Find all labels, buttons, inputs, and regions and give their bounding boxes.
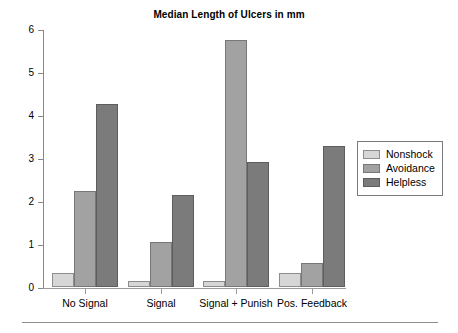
chart-legend: NonshockAvoidanceHelpless <box>357 141 443 196</box>
legend-swatch-icon <box>363 150 380 159</box>
bar[interactable] <box>301 263 323 288</box>
x-axis-tick <box>236 289 237 294</box>
bar[interactable] <box>323 146 345 287</box>
y-axis-tick: 6 <box>38 30 43 31</box>
y-axis-tick: 3 <box>38 159 43 160</box>
y-axis-tick: 2 <box>38 202 43 203</box>
legend-swatch-icon <box>363 164 380 173</box>
y-axis-tick: 5 <box>38 73 43 74</box>
bar[interactable] <box>96 104 118 287</box>
bar[interactable] <box>279 273 301 287</box>
legend-item-label: Helpless <box>386 176 426 189</box>
legend-swatch-icon <box>363 178 380 187</box>
x-axis-label: Pos. Feedback <box>277 296 347 310</box>
bar[interactable] <box>128 281 150 287</box>
chart-title: Median Length of Ulcers in mm <box>0 9 458 20</box>
bar-group <box>279 29 345 287</box>
y-axis-tick-label: 3 <box>28 152 34 165</box>
legend-item[interactable]: Helpless <box>363 176 435 189</box>
x-axis-label: Signal <box>146 296 175 310</box>
bar-group <box>52 29 118 287</box>
x-axis-tick <box>161 289 162 294</box>
bar[interactable] <box>172 195 194 287</box>
bar[interactable] <box>74 191 96 287</box>
bar[interactable] <box>225 40 247 287</box>
plot-area: 0123456 No SignalSignalSignal + PunishPo… <box>43 30 346 288</box>
x-axis-label: Signal + Punish <box>199 296 272 310</box>
y-axis-tick-label: 6 <box>28 23 34 36</box>
bottom-divider <box>22 322 438 323</box>
bar[interactable] <box>150 242 172 287</box>
legend-item-label: Avoidance <box>386 162 435 175</box>
x-axis-tick <box>312 289 313 294</box>
x-axis-line <box>43 288 346 289</box>
y-axis-tick: 0 <box>38 288 43 289</box>
legend-item[interactable]: Nonshock <box>363 148 435 161</box>
bar[interactable] <box>52 273 74 287</box>
y-axis-tick-label: 1 <box>28 238 34 251</box>
y-axis-tick-label: 4 <box>28 109 34 122</box>
y-axis-tick: 1 <box>38 245 43 246</box>
y-axis-tick-label: 0 <box>28 281 34 294</box>
bar-group <box>203 29 269 287</box>
y-axis-tick: 4 <box>38 116 43 117</box>
bar-group <box>128 29 194 287</box>
legend-item[interactable]: Avoidance <box>363 162 435 175</box>
legend-item-label: Nonshock <box>386 148 433 161</box>
x-axis-tick <box>85 289 86 294</box>
bar[interactable] <box>203 281 225 287</box>
x-axis-label: No Signal <box>62 296 108 310</box>
y-axis-tick-label: 2 <box>28 195 34 208</box>
bar[interactable] <box>247 162 269 287</box>
y-axis-tick-label: 5 <box>28 66 34 79</box>
y-axis-line <box>43 30 44 289</box>
